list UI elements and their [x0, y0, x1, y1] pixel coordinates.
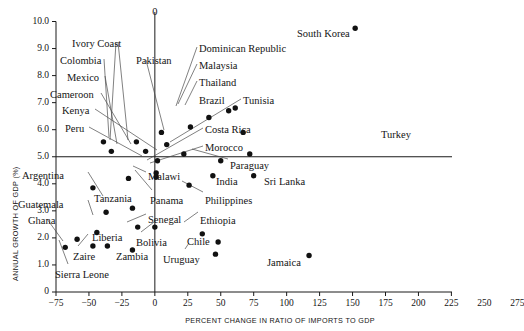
data-point[interactable] [134, 139, 139, 144]
point-label-pakistan: Pakistan [136, 56, 172, 67]
point-label-zaire: Zaire [73, 252, 95, 263]
y-tick-label: 5.0 [0, 152, 49, 162]
data-point[interactable] [90, 243, 95, 248]
y-tick-label: 0 [0, 287, 49, 297]
x-axis-title: PERCENT CHANGE IN RATIO OF IMPORTS TO GD… [185, 317, 375, 324]
x-tick-label: 200 [411, 299, 425, 309]
data-point[interactable] [159, 130, 164, 135]
data-point[interactable] [63, 245, 68, 250]
y-axis-title: ANNUAL GROWTH OF GDP (%) [12, 167, 19, 282]
x-tick-label: 250 [477, 299, 491, 309]
point-label-jamaica: Jamaica [267, 258, 301, 269]
point-label-morocco: Morocco [205, 143, 243, 154]
data-point[interactable] [251, 173, 256, 178]
data-point[interactable] [352, 26, 357, 31]
point-label-senegal: Senegal [148, 215, 181, 226]
thailand-leader [185, 81, 197, 105]
x-tick-label: 50 [216, 299, 226, 309]
point-label-sri-lanka: Sri Lanka [264, 177, 305, 188]
guatemala-leader [88, 200, 93, 215]
point-label-kenya: Kenya [62, 106, 89, 117]
data-point[interactable] [103, 210, 108, 215]
x-tick-label: 0 [152, 299, 157, 309]
y-tick-label: 7.0 [0, 98, 49, 108]
data-point[interactable] [181, 151, 186, 156]
point-label-ghana: Ghana [28, 216, 55, 227]
y-tick-label: 6.0 [0, 125, 49, 135]
data-point[interactable] [218, 158, 223, 163]
data-point[interactable] [247, 151, 252, 156]
data-point[interactable] [188, 124, 193, 129]
y-tick-label: 2.0 [0, 233, 49, 243]
sierraleone-leader [59, 240, 68, 264]
point-label-tunisia: Tunisia [243, 96, 274, 107]
x-tick-label: 100 [280, 299, 294, 309]
point-label-malaysia: Malaysia [199, 61, 238, 72]
data-point[interactable] [135, 224, 140, 229]
senegal-leader [127, 214, 146, 222]
x-tick-label: 175 [378, 299, 392, 309]
x-tick-label: 125 [312, 299, 326, 309]
data-point[interactable] [143, 149, 148, 154]
point-label-colombia: Colombia [60, 56, 101, 67]
x-tick-label: 25 [183, 299, 193, 309]
point-label-philippines: Philippines [205, 196, 252, 207]
x-tick-label: 275 [510, 299, 524, 309]
ethiopia-leader [184, 212, 198, 222]
y-tick-label: 1.0 [0, 260, 49, 270]
malawi-leader [133, 166, 146, 172]
data-point[interactable] [226, 108, 231, 113]
point-label-bolivia: Bolivia [136, 238, 167, 249]
data-point[interactable] [215, 239, 220, 244]
y-tick-label: 10.0 [0, 17, 49, 27]
x-tick-label: −25 [114, 299, 129, 309]
point-label-argentina: Argentina [22, 171, 64, 182]
data-point[interactable] [101, 139, 106, 144]
data-point[interactable] [210, 173, 215, 178]
point-label-brazil: Brazil [199, 96, 225, 107]
point-label-south-korea: South Korea [297, 29, 350, 40]
data-point[interactable] [109, 149, 114, 154]
data-point[interactable] [74, 237, 79, 242]
philippines-leader [182, 181, 203, 192]
ivory-coast-leader-b [110, 42, 116, 140]
data-point[interactable] [126, 176, 131, 181]
point-label-dominican-republic: Dominican Republic [199, 44, 286, 55]
data-point[interactable] [90, 185, 95, 190]
x-tick-label: −75 [49, 299, 64, 309]
x-tick-label: −50 [82, 299, 97, 309]
point-label-india: India [216, 177, 238, 188]
malaysia-leader [178, 64, 197, 104]
point-label-sierra-leone: Sierra Leone [55, 270, 109, 281]
point-label-uruguay: Uruguay [163, 255, 200, 266]
point-label-ivory-coast: Ivory Coast [72, 39, 121, 50]
x-tick-label: 75 [249, 299, 259, 309]
data-point[interactable] [155, 158, 160, 163]
point-label-panama: Panama [150, 196, 183, 207]
x-tick-label: 150 [345, 299, 359, 309]
y-tick-label: 9.0 [0, 44, 49, 54]
x-tick-label: 225 [444, 299, 458, 309]
domrep-leader [176, 47, 197, 106]
data-point[interactable] [206, 115, 211, 120]
data-point[interactable] [105, 243, 110, 248]
data-point[interactable] [306, 253, 311, 258]
colombia-leader [104, 59, 109, 137]
point-label-tanzania: Tanzania [94, 194, 132, 205]
point-label-ethiopia: Ethiopia [200, 216, 236, 227]
point-label-paraguay: Paraguay [230, 161, 269, 172]
y-tick-label: 8.0 [0, 71, 49, 81]
point-label-zambia: Zambia [116, 252, 148, 263]
point-label-cameroon: Cameroon [50, 90, 94, 101]
zero-line-label: 0 [152, 6, 157, 17]
point-label-guatemala: Guatemala [18, 200, 63, 211]
data-point[interactable] [164, 142, 169, 147]
point-label-liberia: Liberia [92, 233, 122, 244]
data-point[interactable] [130, 205, 135, 210]
data-point[interactable] [213, 251, 218, 256]
point-label-chile: Chile [187, 237, 210, 248]
point-label-malawi: Malawi [148, 172, 180, 183]
data-point[interactable] [186, 182, 191, 187]
data-point[interactable] [233, 105, 238, 110]
